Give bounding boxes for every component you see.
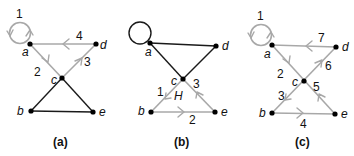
edge-label-3: 3	[278, 89, 285, 103]
edge-label-2: 2	[189, 113, 196, 127]
vertex-label-b: b	[138, 104, 145, 118]
vertex-c	[301, 78, 306, 83]
edge-a-c	[150, 43, 183, 79]
caption-c: (c)	[295, 135, 310, 149]
edge-label-4: 4	[76, 29, 83, 43]
graph-figure: a d c b e 1 2 3 4 (a) a d c	[0, 0, 354, 156]
caption-b: (b)	[174, 135, 189, 149]
vertex-d	[333, 44, 338, 49]
vertex-label-d: d	[342, 40, 349, 54]
edge-c-b	[31, 78, 62, 111]
vertex-label-c: c	[171, 74, 177, 88]
vertex-label-b: b	[17, 104, 24, 118]
vertex-label-e: e	[341, 107, 348, 121]
vertex-c	[59, 75, 64, 80]
vertex-c	[180, 76, 185, 81]
caption-a: (a)	[53, 135, 68, 149]
vertex-label-d: d	[100, 38, 107, 52]
vertex-label-c: c	[51, 73, 57, 87]
edge-d-a	[272, 45, 336, 47]
vertex-e	[90, 109, 95, 114]
vertex-label-b: b	[259, 106, 266, 120]
vertex-b	[148, 109, 153, 114]
panel-b: a d c b e 1 2 3 H (b)	[129, 22, 229, 149]
vertex-label-c: c	[292, 75, 298, 89]
edge-c-d	[62, 44, 96, 78]
vertex-label-e: e	[99, 105, 106, 119]
edge-label-3: 3	[84, 55, 91, 69]
panel-c: a d c b e 1 2 3 4 5 6 7 (c)	[248, 9, 349, 149]
vertex-label-a: a	[145, 45, 152, 59]
edge-a-d	[150, 43, 216, 46]
vertex-d	[93, 41, 98, 46]
vertex-b	[269, 110, 274, 115]
edge-label-2: 2	[34, 65, 41, 79]
vertex-label-a: a	[264, 47, 271, 61]
loop-a	[129, 22, 151, 44]
vertex-d	[213, 43, 218, 48]
edge-c-d	[183, 46, 216, 79]
edge-label-7: 7	[318, 31, 325, 45]
vertex-e	[212, 109, 217, 114]
edge-label-1: 1	[157, 85, 164, 99]
vertex-label-a: a	[22, 45, 29, 59]
edge-label-5: 5	[313, 80, 320, 94]
edge-label-3: 3	[193, 77, 200, 91]
edge-label-1: 1	[257, 9, 264, 23]
vertex-label-e: e	[221, 105, 228, 119]
edge-c-e	[62, 78, 93, 112]
vertex-e	[332, 111, 337, 116]
arrow-a-c-icon	[42, 55, 49, 62]
panel-a: a d c b e 1 2 3 4 (a)	[7, 7, 107, 149]
subgraph-label-h: H	[174, 89, 183, 103]
vertex-b	[28, 108, 33, 113]
edge-label-6: 6	[325, 59, 332, 73]
edge-label-2: 2	[277, 67, 284, 81]
vertex-label-d: d	[222, 39, 229, 53]
edge-label-4: 4	[300, 117, 307, 131]
edge-label-1: 1	[16, 7, 23, 21]
edge-b-e	[31, 111, 93, 112]
